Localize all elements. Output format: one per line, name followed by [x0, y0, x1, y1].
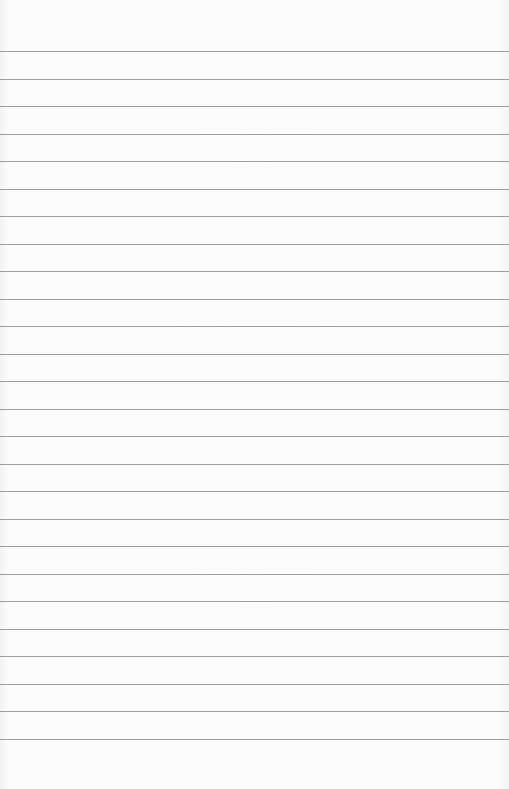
ruled-line	[0, 216, 509, 217]
lined-paper-sheet	[0, 0, 509, 789]
ruled-line	[0, 629, 509, 630]
ruled-line	[0, 299, 509, 300]
ruled-line	[0, 436, 509, 437]
ruled-line	[0, 79, 509, 80]
ruled-line	[0, 546, 509, 547]
ruled-line	[0, 464, 509, 465]
ruled-line	[0, 601, 509, 602]
ruled-line	[0, 161, 509, 162]
ruled-line	[0, 244, 509, 245]
ruled-line	[0, 491, 509, 492]
ruled-line	[0, 656, 509, 657]
ruled-line	[0, 409, 509, 410]
ruled-line	[0, 326, 509, 327]
ruled-line	[0, 574, 509, 575]
ruled-line	[0, 134, 509, 135]
ruled-line	[0, 711, 509, 712]
ruled-line	[0, 189, 509, 190]
ruled-line	[0, 271, 509, 272]
ruled-line	[0, 739, 509, 740]
ruled-line	[0, 354, 509, 355]
ruled-line	[0, 106, 509, 107]
ruled-line	[0, 519, 509, 520]
ruled-line	[0, 381, 509, 382]
ruled-line	[0, 684, 509, 685]
ruled-line	[0, 51, 509, 52]
